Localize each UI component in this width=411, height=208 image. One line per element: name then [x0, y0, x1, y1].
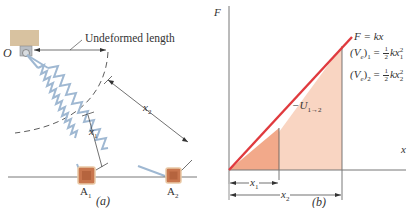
collar-a2-label: A2: [167, 186, 178, 200]
dim-x2-arrow-right: [335, 193, 341, 197]
energy-eq-2: (Ve)2 = 12kx22: [350, 68, 403, 83]
energy-area-dark: [229, 128, 279, 170]
diagram-canvas: [0, 0, 411, 208]
dim-x1-arrow-right: [272, 181, 278, 185]
x-axis-label: x: [401, 144, 406, 155]
caption-a: (a): [96, 195, 110, 207]
collar-a2-face: [170, 172, 178, 180]
caption-b: (b): [312, 196, 326, 208]
x1-dimension-line: [88, 115, 102, 167]
spring-a1: [27, 55, 80, 172]
collar-a1-face: [82, 171, 91, 180]
arrowhead-right: [100, 48, 106, 52]
y-axis-label: F: [214, 7, 221, 18]
energy-eq-1: (Ve)1 = 12kx21: [350, 46, 403, 61]
force-line-label: F = kx: [354, 31, 383, 42]
x2-label-a: x2: [143, 102, 151, 116]
work-label: −U1→2: [292, 100, 321, 114]
x1-label-a: x1: [89, 126, 97, 140]
undeformed-length-label: Undeformed length: [85, 33, 175, 45]
collar-a1-label: A1: [80, 186, 91, 200]
wall-support: [10, 30, 39, 46]
x1-tick-bottom: [96, 163, 108, 170]
pivot-label: O: [3, 47, 12, 59]
dim-x1-label: x1: [249, 177, 259, 191]
dim-x2-label: x2: [280, 189, 290, 203]
arrowhead-left: [34, 48, 40, 52]
dim-x1-arrow-left: [230, 181, 236, 185]
undeformed-leader: [70, 40, 82, 50]
dim-x2-arrow-left: [230, 193, 236, 197]
